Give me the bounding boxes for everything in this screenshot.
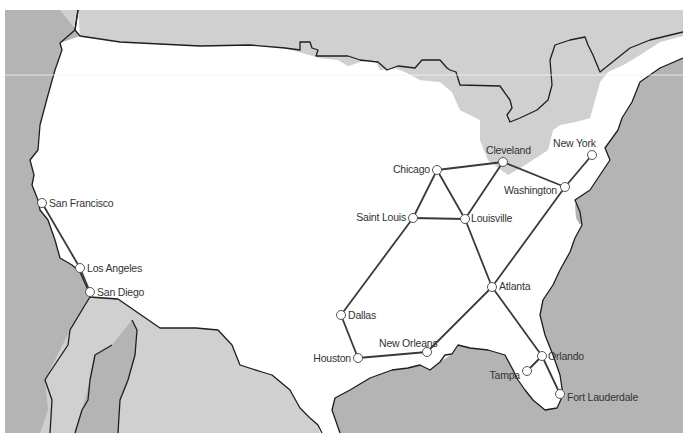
- city-label: Orlando: [548, 350, 584, 362]
- city-label: Cleveland: [486, 144, 531, 156]
- city-node-icon[interactable]: [499, 158, 508, 167]
- city-label: San Francisco: [49, 197, 114, 209]
- city-node-icon[interactable]: [523, 367, 532, 376]
- city-label: Los Angeles: [87, 262, 142, 274]
- city-label: Houston: [313, 352, 351, 364]
- city-node-icon[interactable]: [556, 390, 565, 399]
- city-node-icon[interactable]: [538, 352, 547, 361]
- city-label: Washington: [504, 184, 557, 196]
- city-label: Dallas: [348, 309, 376, 321]
- city-node-icon[interactable]: [76, 264, 85, 273]
- us-route-map: San FranciscoLos AngelesSan DiegoChicago…: [0, 0, 683, 443]
- city-node-icon[interactable]: [38, 199, 47, 208]
- city-node-icon[interactable]: [86, 288, 95, 297]
- route-stl-lou: [413, 218, 465, 219]
- city-node-icon[interactable]: [588, 151, 597, 160]
- city-label: San Diego: [97, 286, 145, 298]
- city-node-icon[interactable]: [488, 283, 497, 292]
- city-label: New Orleans: [379, 337, 438, 349]
- city-label: Tampa: [489, 369, 520, 381]
- city-label: New York: [553, 137, 597, 149]
- city-label: Fort Lauderdale: [567, 391, 638, 403]
- city-label: Chicago: [393, 163, 430, 175]
- city-node-icon[interactable]: [461, 215, 470, 224]
- city-node-icon[interactable]: [561, 183, 570, 192]
- city-node-icon[interactable]: [409, 214, 418, 223]
- city-label: Saint Louis: [356, 211, 406, 223]
- city-label: Atlanta: [499, 280, 531, 292]
- city-label: Louisville: [471, 212, 513, 224]
- city-node-icon[interactable]: [433, 166, 442, 175]
- city-node-icon[interactable]: [354, 354, 363, 363]
- city-node-icon[interactable]: [337, 311, 346, 320]
